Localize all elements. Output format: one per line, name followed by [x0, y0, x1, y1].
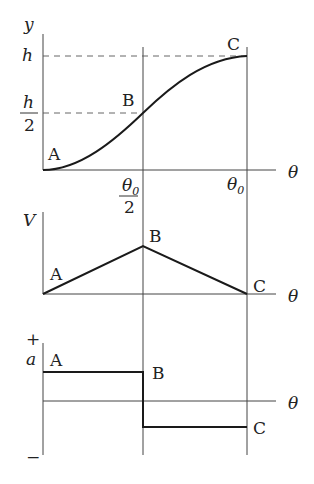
point-c-label: C — [253, 276, 266, 296]
plus-sign: + — [26, 329, 40, 349]
point-a-label: A — [49, 264, 63, 284]
velocity-curve — [43, 246, 247, 294]
half-h-denominator: 2 — [24, 115, 35, 135]
theta-axis-label: θ — [288, 162, 298, 182]
point-c-label: C — [253, 418, 266, 438]
displacement-curve — [43, 56, 247, 170]
point-c-label: C — [227, 34, 240, 54]
half-theta0-numerator: θ0 — [122, 175, 139, 198]
displacement-graph: y h h 2 A B C θ θ0 2 θ0 — [20, 14, 298, 217]
half-theta0-denominator: 2 — [124, 197, 135, 217]
v-axis-label: V — [23, 210, 37, 230]
theta0-tick-label: θ0 — [227, 174, 244, 197]
point-a-label: A — [47, 144, 61, 164]
point-a-label: A — [49, 350, 63, 370]
velocity-graph: V A B C θ — [23, 210, 298, 306]
minus-sign: − — [26, 447, 40, 467]
h-tick-label: h — [22, 45, 33, 65]
point-b-label: B — [122, 90, 135, 110]
theta-axis-label: θ — [288, 286, 298, 306]
acceleration-graph: + a − A B C θ — [26, 329, 298, 467]
point-b-label: B — [152, 363, 165, 383]
motion-diagram: y h h 2 A B C θ θ0 2 θ0 V A B C θ + a − … — [0, 0, 314, 484]
theta-axis-label: θ — [288, 393, 298, 413]
half-h-numerator: h — [23, 92, 34, 112]
a-axis-label: a — [26, 349, 36, 369]
y-axis-label: y — [23, 14, 34, 34]
point-b-label: B — [149, 226, 162, 246]
acceleration-curve — [43, 372, 247, 427]
